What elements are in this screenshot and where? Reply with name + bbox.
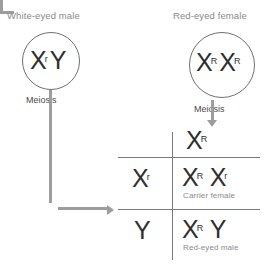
female-meiosis-arrow-shaft <box>211 100 214 122</box>
male-parent-genotype: XrY <box>30 48 66 73</box>
gamete-row1-superscript: r <box>147 172 150 182</box>
cell2-allele-2: Y <box>210 215 227 243</box>
grid-line-top <box>118 157 260 158</box>
male-allele-1-superscript: r <box>45 54 48 64</box>
female-allele-2-superscript: R <box>234 56 241 66</box>
cell1-allele-1-superscript: R <box>197 171 204 181</box>
punnett-square-diagram: White-eyed male Red-eyed female XrY XRXR… <box>0 0 272 276</box>
punnett-cell-2-phenotype: Red-eyed male <box>183 244 239 252</box>
gamete-row-header-2: Y <box>134 218 151 243</box>
female-allele-1-superscript: R <box>211 56 218 66</box>
punnett-cell-carrier-female: XR Xr Carrier female <box>182 165 235 200</box>
grid-line-middle <box>118 209 260 210</box>
cell1-allele-2-superscript: r <box>224 171 227 181</box>
male-parent-title: White-eyed male <box>7 10 80 21</box>
male-meiosis-arrow-shaft-vertical <box>49 90 52 203</box>
female-parent-title: Red-eyed female <box>173 10 247 21</box>
grid-line-vertical <box>172 132 173 260</box>
female-meiosis-arrow-head-icon <box>207 120 217 127</box>
male-meiosis-arrow-shaft-horizontal <box>58 207 110 210</box>
punnett-cell-red-eyed-male: XR Y Red-eyed male <box>182 217 239 252</box>
male-allele-2: Y <box>50 46 67 74</box>
punnett-cell-2-genotype: XR Y <box>182 217 239 242</box>
cell2-allele-1-superscript: R <box>197 223 204 233</box>
female-parent-genotype: XRXR <box>196 50 242 75</box>
male-meiosis-arrow-head-icon <box>107 205 114 215</box>
gamete-top-superscript: R <box>201 134 208 144</box>
gamete-row-header-1: Xr <box>132 166 152 191</box>
gamete-column-header: XR <box>186 128 209 153</box>
gamete-row2-symbol: Y <box>134 216 151 244</box>
punnett-cell-1-genotype: XR Xr <box>182 165 235 190</box>
female-meiosis-label: Meiosis <box>194 104 225 114</box>
punnett-cell-1-phenotype: Carrier female <box>183 192 235 200</box>
